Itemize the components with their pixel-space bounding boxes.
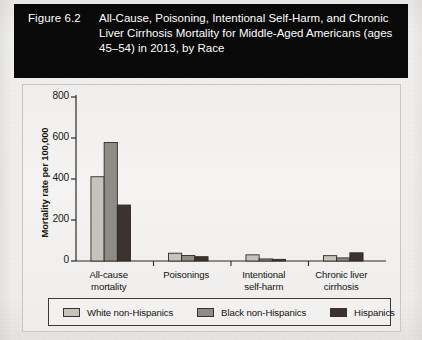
y-tick-label: 0 bbox=[35, 254, 69, 265]
category-label-line: Intentional bbox=[225, 269, 303, 281]
legend-label: White non-Hispanics bbox=[87, 307, 173, 318]
figure-number: Figure 6.2 bbox=[28, 11, 99, 26]
legend-label: Hispanics bbox=[354, 307, 395, 318]
title-row: Figure 6.2 All-Cause, Poisoning, Intenti… bbox=[28, 11, 398, 57]
category-label: Poisonings bbox=[148, 269, 226, 281]
figure-title: All-Cause, Poisoning, Intentional Self-H… bbox=[99, 11, 398, 57]
bar-chart-plot bbox=[23, 85, 402, 333]
figure-title-banner: Figure 6.2 All-Cause, Poisoning, Intenti… bbox=[14, 4, 408, 78]
category-label-line: self-harm bbox=[225, 281, 303, 293]
chart-legend: White non-Hispanics Black non-Hispanics … bbox=[48, 298, 391, 326]
category-label-line: cirrhosis bbox=[303, 281, 381, 293]
legend-swatch-icon bbox=[330, 308, 347, 317]
y-tick-label: 800 bbox=[35, 90, 69, 101]
y-tick-label: 400 bbox=[35, 172, 69, 183]
category-label-line: All-cause bbox=[70, 269, 148, 281]
category-label: Chronic livercirrhosis bbox=[303, 269, 381, 292]
chart-panel: Mortality rate per 100,000 0200400600800… bbox=[22, 84, 401, 332]
legend-label: Black non-Hispanics bbox=[221, 307, 306, 318]
legend-item-hispanics: Hispanics bbox=[330, 307, 395, 318]
legend-swatch-icon bbox=[63, 308, 80, 317]
category-label-line: mortality bbox=[70, 281, 148, 293]
category-label-line: Poisonings bbox=[148, 269, 226, 281]
legend-item-white-non-hispanics: White non-Hispanics bbox=[63, 307, 173, 318]
category-label-line: Chronic liver bbox=[303, 269, 381, 281]
y-tick-label: 600 bbox=[35, 131, 69, 142]
category-label: Intentionalself-harm bbox=[225, 269, 303, 292]
category-label: All-causemortality bbox=[70, 269, 148, 292]
y-tick-label: 200 bbox=[35, 213, 69, 224]
legend-item-black-non-hispanics: Black non-Hispanics bbox=[197, 307, 306, 318]
legend-swatch-icon bbox=[197, 308, 214, 317]
